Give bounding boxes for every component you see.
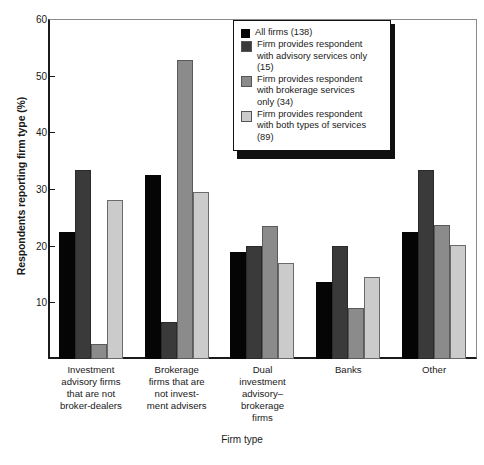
y-tick-label: 40 [21, 127, 47, 138]
bar-series-1[interactable] [418, 170, 434, 359]
bar-group [134, 19, 220, 359]
legend-item[interactable]: Firm provides respondent with brokerage … [241, 74, 384, 108]
bar-series-2[interactable] [434, 225, 450, 359]
bar-series-1[interactable] [332, 246, 348, 359]
bar-series-3[interactable] [278, 263, 294, 359]
series-1-swatch [241, 41, 252, 52]
bar-series-2[interactable] [262, 226, 278, 359]
bar-chart-figure: Respondents reporting firm type (%) 1020… [0, 0, 484, 465]
bar-series-0[interactable] [402, 232, 418, 359]
series-3-swatch [241, 111, 252, 122]
bar-series-2[interactable] [91, 344, 107, 359]
x-axis-title: Firm type [0, 434, 484, 445]
bar-series-0[interactable] [145, 175, 161, 359]
legend-item-label: Firm provides respondent with both types… [257, 109, 366, 143]
bar-group [48, 19, 134, 359]
series-0-swatch [241, 29, 250, 38]
y-tick-label: 20 [21, 240, 47, 251]
bar-series-0[interactable] [316, 282, 332, 359]
y-tick-label: 60 [21, 14, 47, 25]
bar-series-1[interactable] [75, 170, 91, 359]
legend-item[interactable]: Firm provides respondent with both types… [241, 109, 384, 143]
bar-series-2[interactable] [177, 60, 193, 359]
y-tick-label: 50 [21, 70, 47, 81]
y-tick-label: 10 [21, 297, 47, 308]
bar-group [391, 19, 477, 359]
y-tick-label: 30 [21, 184, 47, 195]
bar-series-3[interactable] [364, 277, 380, 359]
bar-series-1[interactable] [246, 246, 262, 359]
legend-item-label: Firm provides respondent with brokerage … [257, 74, 362, 108]
bar-series-3[interactable] [193, 192, 209, 359]
bar-series-3[interactable] [107, 200, 123, 359]
bar-series-0[interactable] [230, 252, 246, 359]
bar-series-1[interactable] [161, 322, 177, 359]
legend-item-label: All firms (138) [255, 27, 312, 38]
legend-item-label: Firm provides respondent with advisory s… [257, 39, 367, 73]
x-category-label: Other [383, 364, 484, 376]
series-2-swatch [241, 76, 252, 87]
legend-item[interactable]: All firms (138) [241, 27, 384, 38]
bar-series-0[interactable] [59, 232, 75, 359]
legend: All firms (138)Firm provides respondent … [233, 20, 391, 151]
legend-item[interactable]: Firm provides respondent with advisory s… [241, 39, 384, 73]
bar-series-2[interactable] [348, 308, 364, 359]
bar-series-3[interactable] [450, 245, 466, 359]
